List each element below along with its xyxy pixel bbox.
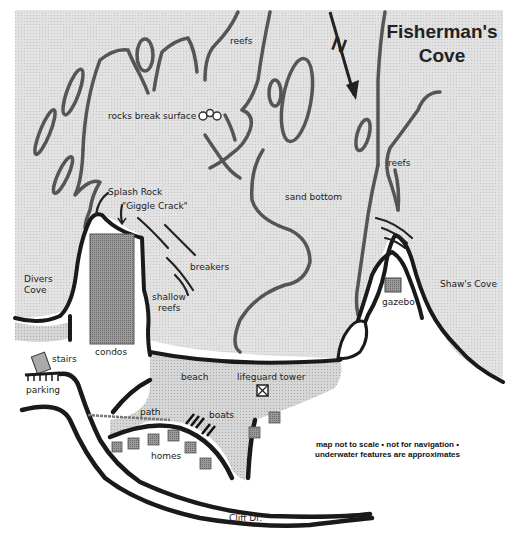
label-cliff-dr: Cliff Dr. (229, 513, 262, 523)
label-parking: parking (26, 385, 60, 395)
label-boats: boats (209, 410, 234, 420)
map-title-line2: Cove (419, 45, 465, 66)
label-reefs-top: reefs (230, 36, 253, 46)
disclaimer-line1: map not to scale • not for navigation • (316, 440, 459, 449)
label-sand-bottom: sand bottom (285, 192, 342, 202)
label-divers-cove-1: Divers (24, 274, 53, 284)
condos-building (90, 234, 134, 344)
home (185, 442, 196, 453)
label-giggle-crack: "Giggle Crack" (122, 201, 188, 211)
label-rocks-break-surface: rocks break surface (108, 111, 197, 121)
home (168, 430, 179, 441)
fishermans-cove-map: Fisherman's Cove N reefs rocks break sur… (0, 0, 513, 546)
label-breakers: breakers (190, 262, 229, 272)
label-reefs-right: reefs (388, 158, 411, 168)
label-shallow-reefs-2: reefs (158, 303, 181, 313)
label-condos: condos (95, 347, 127, 357)
disclaimer-line2: underwater features are approximates (315, 450, 460, 459)
label-lifeguard-tower: lifeguard tower (237, 372, 306, 382)
map-title-line1: Fisherman's (386, 21, 497, 42)
label-stairs: stairs (52, 354, 77, 364)
gazebo-building (385, 278, 401, 292)
label-homes: homes (151, 451, 182, 461)
label-path: path (140, 407, 160, 417)
label-gazebo: gazebo (382, 297, 415, 307)
home (269, 412, 280, 423)
lifeguard-tower-icon (257, 385, 268, 396)
home (249, 427, 260, 438)
label-beach: beach (181, 372, 208, 382)
home (148, 434, 159, 445)
home (112, 442, 122, 452)
home (128, 438, 139, 449)
home (200, 458, 211, 469)
label-shaws-cove: Shaw's Cove (440, 279, 497, 289)
label-shallow-reefs-1: shallow (152, 292, 186, 302)
label-divers-cove-2: Cove (24, 285, 47, 295)
label-splash-rock: Splash Rock (108, 187, 163, 197)
